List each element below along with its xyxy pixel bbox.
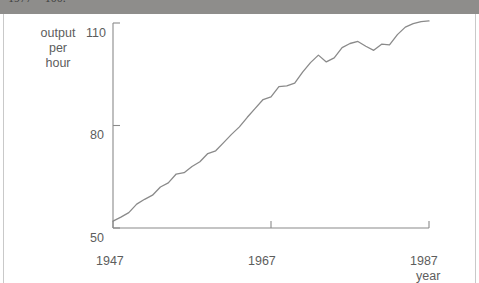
x-tick-marks <box>113 221 429 228</box>
y-axis-title-line-3: hour <box>30 56 86 71</box>
y-axis-title-line-2: per <box>30 41 86 56</box>
x-axis-title: year <box>416 269 440 283</box>
y-axis-title-line-1: output <box>30 26 86 41</box>
y-axis-title: output per hour <box>30 26 86 71</box>
y-tick-label-80: 80 <box>90 128 104 142</box>
x-tick-label-1947: 1947 <box>96 254 124 268</box>
top-gray-band: 1977 = 100. <box>0 0 479 14</box>
page-canvas: 1977 = 100. output per hour 110 80 50 19… <box>0 0 479 283</box>
x-tick-label-1967: 1967 <box>248 254 276 268</box>
chart-figure: output per hour 110 80 50 1947 1967 1987… <box>0 14 479 283</box>
series-line-output-per-hour <box>113 21 429 221</box>
y-tick-label-50: 50 <box>90 231 104 245</box>
y-tick-label-110: 110 <box>86 26 106 40</box>
y-tick-marks <box>113 23 120 228</box>
x-tick-label-1987: 1987 <box>410 254 438 268</box>
clipped-caption-text: 1977 = 100. <box>8 0 66 6</box>
